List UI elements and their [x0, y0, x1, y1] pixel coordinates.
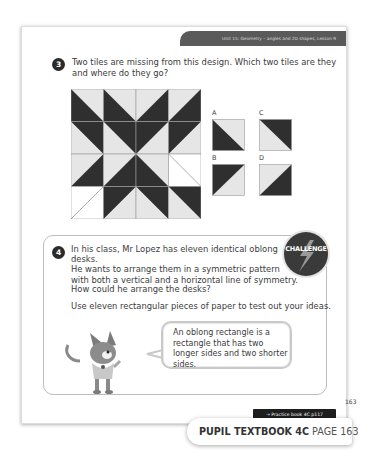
question-4-paragraph-2: How could he arrange the desks?	[71, 284, 211, 295]
question-number-badge-4: 4	[52, 246, 65, 259]
textbook-page: Unit 15: Geometry – angles and 2D shapes…	[21, 26, 347, 424]
tile-option-d[interactable]	[259, 164, 292, 196]
question-3-line-2: and where do they go?	[72, 68, 342, 79]
tile-grid-graphic	[71, 89, 201, 219]
challenge-badge: CHALLENGE	[284, 232, 328, 276]
tile-label-d: D	[259, 154, 264, 162]
question-4-paragraph-3: Use eleven rectangular pieces of paper t…	[71, 301, 341, 312]
q4-line-2: He wants to arrange them in a symmetric …	[71, 264, 301, 274]
tile-design-grid	[71, 89, 201, 219]
book-label: PUPIL TEXTBOOK 4C	[199, 426, 309, 437]
unit-header-bar: Unit 15: Geometry – angles and 2D shapes…	[180, 31, 346, 46]
lightning-bolt-icon	[284, 232, 328, 276]
tile-option-a[interactable]	[212, 119, 245, 151]
tile-label-c: C	[259, 109, 264, 117]
q4-line-1: In his class, Mr Lopez has eleven identi…	[71, 244, 301, 264]
question-3-line-1: Two tiles are missing from this design. …	[72, 57, 342, 68]
tile-label-b: B	[212, 154, 216, 162]
tile-option-c[interactable]	[259, 119, 292, 151]
fox-character-illustration	[60, 327, 140, 397]
page-label-pill: PUPIL TEXTBOOK 4C PAGE 163	[187, 418, 352, 445]
speech-bubble-text: An oblong rectangle is a rectangle that …	[173, 328, 291, 370]
challenge-badge-label: CHALLENGE	[284, 245, 328, 253]
page-number: 163	[345, 398, 356, 405]
question-4-paragraph-1: In his class, Mr Lopez has eleven identi…	[71, 244, 301, 285]
speech-bubble: An oblong rectangle is a rectangle that …	[161, 321, 292, 369]
tile-label-a: A	[212, 109, 216, 117]
tile-option-b[interactable]	[212, 164, 245, 196]
question-3-text: Two tiles are missing from this design. …	[72, 57, 342, 78]
question-number-badge: 3	[52, 58, 65, 71]
page-label: PAGE 163	[312, 426, 358, 437]
